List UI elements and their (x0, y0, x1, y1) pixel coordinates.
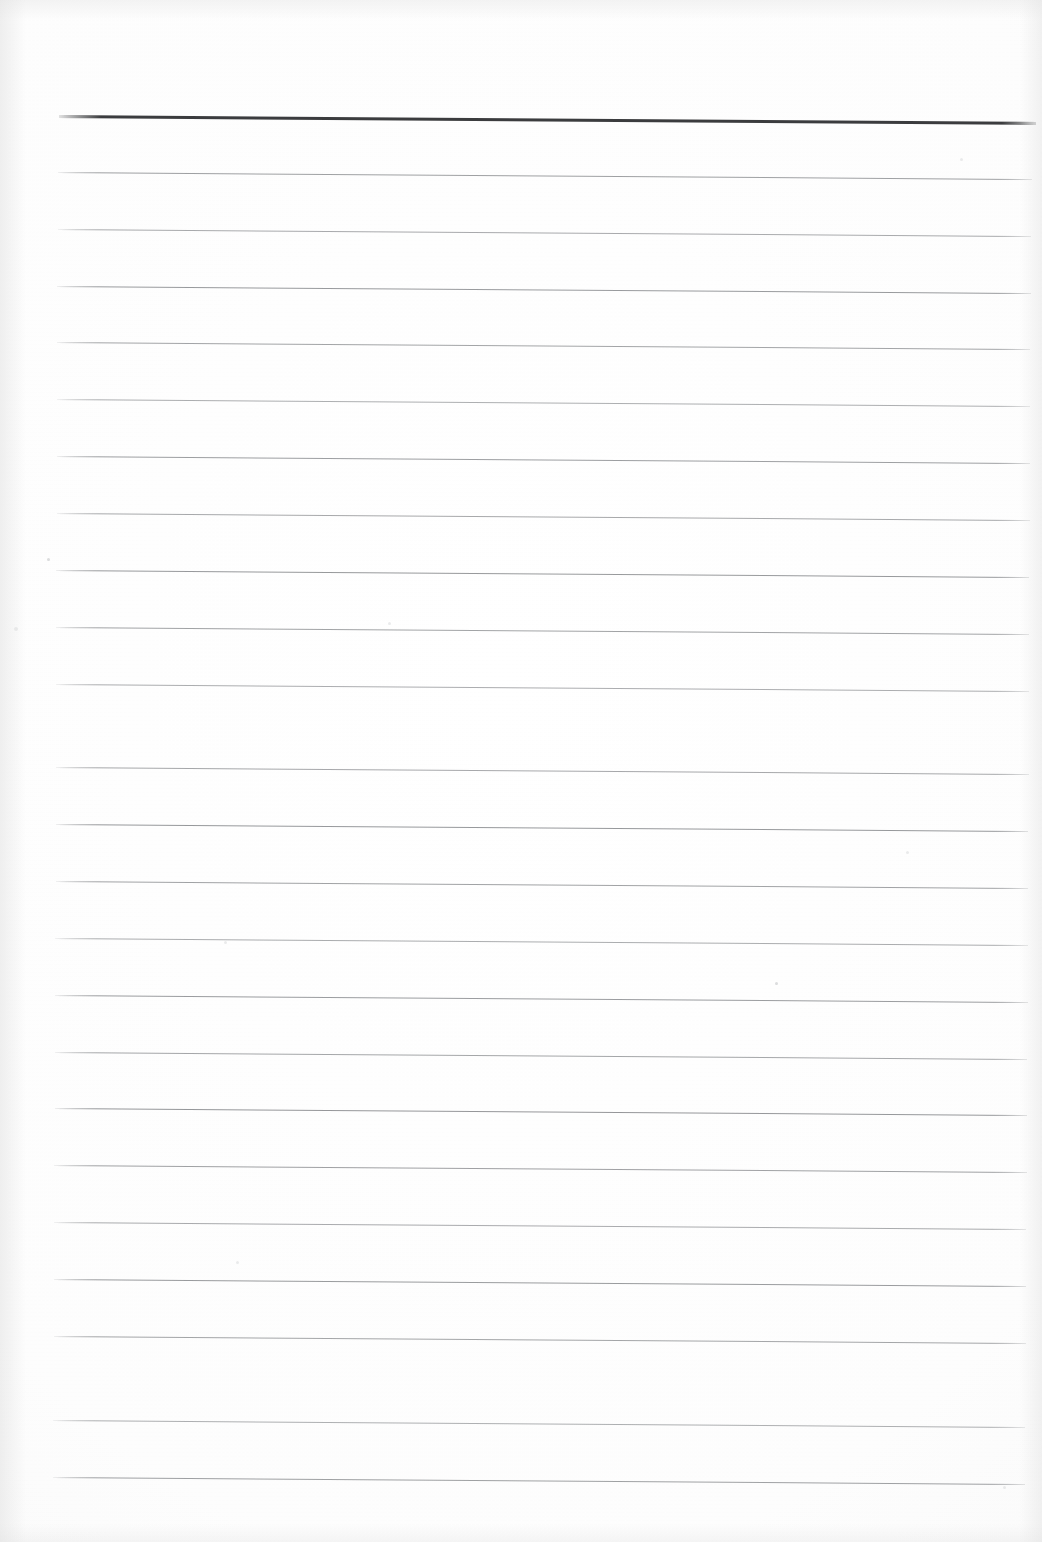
rule-line (55, 1052, 1027, 1060)
scan-speck (1003, 1486, 1006, 1489)
rule-line (56, 824, 1028, 832)
rule-line (54, 1279, 1026, 1287)
ruled-lines-layer (0, 0, 1042, 1542)
rule-line (55, 938, 1028, 946)
rule-line (56, 684, 1029, 692)
scan-speck (236, 1261, 239, 1264)
rule-line (53, 1477, 1025, 1485)
scan-speck (960, 158, 963, 161)
scan-speck (224, 941, 227, 944)
rule-line (57, 342, 1030, 350)
rule-line (56, 767, 1029, 775)
scan-speck (775, 982, 778, 985)
rule-line (56, 570, 1029, 578)
rule-line (55, 995, 1028, 1003)
header-rule-line (59, 115, 1036, 125)
rule-line (54, 1222, 1026, 1230)
rule-line (55, 1108, 1027, 1116)
scanned-page (0, 0, 1042, 1542)
scan-speck (906, 851, 909, 854)
rule-line (54, 1336, 1026, 1344)
rule-line (56, 881, 1028, 889)
scan-speck (47, 558, 50, 561)
rule-line (58, 172, 1032, 180)
rule-line (56, 627, 1029, 635)
rule-line (54, 1165, 1027, 1173)
scan-speck (14, 627, 18, 631)
rule-line (57, 399, 1030, 407)
rule-line (53, 1420, 1025, 1428)
rule-line (57, 513, 1030, 521)
rule-line (57, 286, 1031, 294)
rule-line (57, 456, 1030, 464)
scan-speck (388, 622, 391, 625)
rule-line (58, 229, 1031, 237)
